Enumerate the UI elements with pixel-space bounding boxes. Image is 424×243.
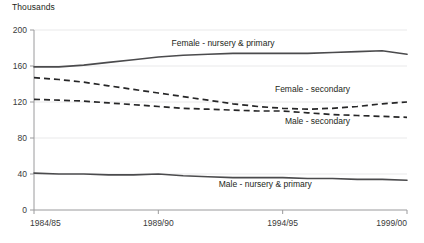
series-label: Male - nursery & primary <box>219 179 313 189</box>
series-label: Male - secondary <box>285 116 351 126</box>
y-tick-label: 200 <box>13 25 27 35</box>
y-tick-label: 80 <box>18 133 28 143</box>
series-lines <box>34 51 407 181</box>
x-tick-label: 1989/90 <box>143 218 174 228</box>
y-tick-label: 160 <box>13 61 27 71</box>
series-label: Female - secondary <box>275 84 351 94</box>
y-axis: 04080120160200 <box>13 25 34 215</box>
x-tick-label: 1994/95 <box>267 218 298 228</box>
x-tick-label: 1999/00 <box>376 218 407 228</box>
line-chart: Thousands 04080120160200 1984/851989/901… <box>0 0 424 243</box>
series-line <box>34 51 407 67</box>
y-tick-label: 120 <box>13 97 27 107</box>
x-tick-label: 1984/85 <box>30 218 61 228</box>
chart-plot-area: 04080120160200 1984/851989/901994/951999… <box>0 0 424 243</box>
y-tick-label: 0 <box>22 205 27 215</box>
y-tick-label: 40 <box>18 169 28 179</box>
x-axis: 1984/851989/901994/951999/00 <box>30 210 407 228</box>
series-line <box>34 78 407 110</box>
series-label: Female - nursery & primary <box>172 38 276 48</box>
